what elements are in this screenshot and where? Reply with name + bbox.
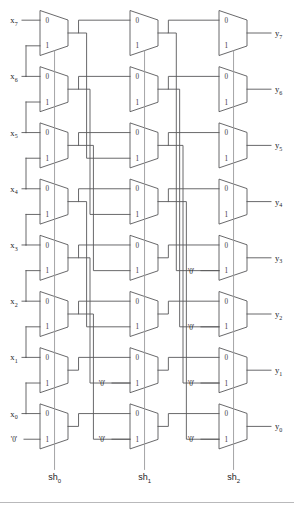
mux-sh1-row7[interactable]: 01 bbox=[130, 404, 158, 449]
mux-input-0-label: 0 bbox=[46, 17, 50, 25]
wire-stage0-out2-to-in0 bbox=[68, 133, 130, 146]
wire-stage0-out3-to-in0 bbox=[68, 189, 130, 202]
wire-stage0-out7-to-in0 bbox=[68, 414, 130, 427]
mux-input-1-label: 1 bbox=[46, 380, 50, 388]
mux-input-0-label: 0 bbox=[136, 354, 140, 362]
mux-sh0-row4[interactable]: 01 bbox=[40, 235, 68, 280]
mux-sh0-row6[interactable]: 01 bbox=[40, 348, 68, 393]
mux-body[interactable] bbox=[219, 123, 247, 168]
y-output-0: y0 bbox=[275, 421, 282, 433]
mux-body[interactable] bbox=[219, 67, 247, 112]
mux-input-0-label: 0 bbox=[225, 410, 229, 418]
mux-sh0-row7[interactable]: 01 bbox=[40, 404, 68, 449]
mux-input-1-label: 1 bbox=[225, 436, 229, 444]
x-input-4: x4 bbox=[10, 184, 17, 196]
mux-body[interactable] bbox=[40, 67, 68, 112]
zero-label-stage2-row5: '0' bbox=[188, 323, 195, 332]
mux-body[interactable] bbox=[219, 11, 247, 56]
mux-body[interactable] bbox=[40, 404, 68, 449]
mux-input-0-label: 0 bbox=[225, 73, 229, 81]
mux-body[interactable] bbox=[40, 235, 68, 280]
wire-stage0-out1-to-in0 bbox=[68, 76, 130, 89]
x-input-3: x3 bbox=[10, 240, 17, 252]
mux-input-0-label: 0 bbox=[225, 242, 229, 250]
mux-input-1-label: 1 bbox=[136, 380, 140, 388]
mux-input-0-label: 0 bbox=[46, 129, 50, 137]
mux-sh2-row0[interactable]: 01 bbox=[219, 11, 247, 56]
mux-input-1-label: 1 bbox=[136, 436, 140, 444]
mux-sh1-row4[interactable]: 01 bbox=[130, 235, 158, 280]
mux-body[interactable] bbox=[40, 179, 68, 224]
wire-stage1-out6-to-in0 bbox=[158, 357, 219, 370]
mux-body[interactable] bbox=[219, 348, 247, 393]
mux-input-1-label: 1 bbox=[225, 211, 229, 219]
mux-sh2-row3[interactable]: 01 bbox=[219, 179, 247, 224]
mux-input-1-label: 1 bbox=[46, 211, 50, 219]
mux-body[interactable] bbox=[130, 179, 158, 224]
mux-sh0-row1[interactable]: 01 bbox=[40, 67, 68, 112]
mux-body[interactable] bbox=[130, 292, 158, 337]
mux-input-0-label: 0 bbox=[46, 185, 50, 193]
mux-input-0-label: 0 bbox=[136, 298, 140, 306]
mux-input-0-label: 0 bbox=[225, 298, 229, 306]
mux-body[interactable] bbox=[130, 235, 158, 280]
x-input-5: x5 bbox=[10, 128, 17, 140]
mux-body[interactable] bbox=[130, 67, 158, 112]
mux-body[interactable] bbox=[219, 179, 247, 224]
mux-input-0-label: 0 bbox=[46, 242, 50, 250]
mux-input-1-label: 1 bbox=[136, 211, 140, 219]
mux-body[interactable] bbox=[40, 11, 68, 56]
wire-stage1-out0-to-in0 bbox=[158, 20, 219, 33]
mux-input-0-label: 0 bbox=[225, 17, 229, 25]
mux-input-1-label: 1 bbox=[46, 155, 50, 163]
mux-input-1-label: 1 bbox=[225, 323, 229, 331]
mux-sh2-row4[interactable]: 01 bbox=[219, 235, 247, 280]
wire-stage0-out6-to-in0 bbox=[68, 357, 130, 370]
wire-stage0-out0-to-in1-row2 bbox=[79, 33, 130, 158]
mux-sh1-row5[interactable]: 01 bbox=[130, 292, 158, 337]
mux-body[interactable] bbox=[130, 11, 158, 56]
zero-label-stage2-row4: '0' bbox=[188, 267, 195, 276]
wire-stage0-out0-to-in0 bbox=[68, 20, 130, 33]
mux-sh1-row3[interactable]: 01 bbox=[130, 179, 158, 224]
x-input-7: x7 bbox=[10, 15, 17, 27]
mux-sh1-row2[interactable]: 01 bbox=[130, 123, 158, 168]
mux-body[interactable] bbox=[130, 404, 158, 449]
mux-sh0-row5[interactable]: 01 bbox=[40, 292, 68, 337]
schematic-canvas: 0101010101010101010101010101010101010101… bbox=[0, 0, 294, 508]
mux-sh2-row6[interactable]: 01 bbox=[219, 348, 247, 393]
mux-sh1-row1[interactable]: 01 bbox=[130, 67, 158, 112]
mux-sh2-row1[interactable]: 01 bbox=[219, 67, 247, 112]
mux-sh2-row2[interactable]: 01 bbox=[219, 123, 247, 168]
wire-stage1-out5-to-in0 bbox=[158, 301, 219, 314]
mux-body[interactable] bbox=[130, 123, 158, 168]
mux-sh0-row3[interactable]: 01 bbox=[40, 179, 68, 224]
mux-sh2-row7[interactable]: 01 bbox=[219, 404, 247, 449]
mux-body[interactable] bbox=[40, 348, 68, 393]
mux-input-1-label: 1 bbox=[136, 99, 140, 107]
x-input-6: x6 bbox=[10, 71, 17, 83]
mux-body[interactable] bbox=[219, 235, 247, 280]
mux-sh1-row0[interactable]: 01 bbox=[130, 11, 158, 56]
mux-sh1-row6[interactable]: 01 bbox=[130, 348, 158, 393]
mux-input-1-label: 1 bbox=[225, 42, 229, 50]
mux-body[interactable] bbox=[219, 404, 247, 449]
mux-sh0-row2[interactable]: 01 bbox=[40, 123, 68, 168]
mux-body[interactable] bbox=[130, 348, 158, 393]
mux-body[interactable] bbox=[40, 292, 68, 337]
input-zero-label: '0' bbox=[11, 435, 18, 444]
mux-input-0-label: 0 bbox=[136, 129, 140, 137]
zero-label-stage1-row7: '0' bbox=[99, 435, 106, 444]
wire-stage1-out7-to-in0 bbox=[158, 414, 219, 427]
y-output-4: y4 bbox=[275, 197, 282, 209]
mux-input-1-label: 1 bbox=[225, 380, 229, 388]
mux-input-0-label: 0 bbox=[225, 129, 229, 137]
y-output-1: y1 bbox=[275, 365, 282, 377]
mux-input-1-label: 1 bbox=[136, 42, 140, 50]
mux-body[interactable] bbox=[40, 123, 68, 168]
mux-input-1-label: 1 bbox=[46, 267, 50, 275]
y-output-5: y5 bbox=[275, 140, 282, 152]
mux-sh2-row5[interactable]: 01 bbox=[219, 292, 247, 337]
mux-body[interactable] bbox=[219, 292, 247, 337]
mux-sh0-row0[interactable]: 01 bbox=[40, 11, 68, 56]
